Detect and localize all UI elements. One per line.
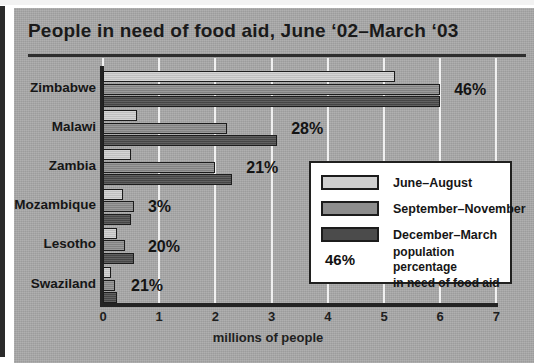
legend-note-line-2: in need of food aid [393, 276, 510, 291]
bar-texture [104, 202, 133, 211]
bar-swaziland-series-3 [103, 292, 117, 303]
x-tick-4: 4 [324, 309, 331, 324]
legend-swatch-december-march [321, 227, 379, 242]
bar-texture [104, 175, 231, 184]
bar-texture [104, 215, 130, 224]
bar-texture [104, 254, 133, 263]
bar-texture [104, 150, 130, 159]
data-label-zimbabwe: 46% [454, 81, 486, 99]
legend-swatch-june-august [321, 175, 379, 190]
legend-label-2: September–November [393, 202, 526, 216]
chart-figure: People in need of food aid, June ‘02–Mar… [0, 0, 534, 363]
x-axis-label: millions of people [168, 330, 368, 345]
bar-texture [104, 163, 214, 172]
bar-swaziland-series-1 [103, 267, 111, 278]
bar-texture [104, 190, 122, 199]
bar-texture [104, 136, 276, 145]
category-label-swaziland: Swaziland [31, 275, 96, 290]
legend-swatch-september-november [321, 201, 379, 216]
data-label-lesotho: 20% [148, 238, 180, 256]
bar-zambia-series-1 [103, 149, 131, 160]
legend-note-line-1: population percentage [393, 245, 510, 276]
page-title: People in need of food aid, June ‘02–Mar… [28, 20, 458, 42]
x-tick-3: 3 [268, 309, 275, 324]
bar-malawi-series-2 [103, 123, 227, 134]
bar-swaziland-series-2 [103, 280, 115, 291]
bar-lesotho-series-2 [103, 240, 125, 251]
bar-mozambique-series-3 [103, 214, 131, 225]
legend-box: June–AugustSeptember–NovemberDecember–Ma… [309, 161, 512, 284]
bar-texture [104, 124, 226, 133]
bar-lesotho-series-1 [103, 228, 117, 239]
legend-note-text: population percentage in need of food ai… [393, 245, 510, 291]
title-band: People in need of food aid, June ‘02–Mar… [14, 14, 534, 52]
bar-texture [104, 241, 124, 250]
bar-texture [104, 72, 394, 81]
top-edge-rule [0, 0, 534, 5]
category-labels: ZimbabweMalawiZambiaMozambiqueLesothoSwa… [0, 68, 96, 303]
category-label-mozambique: Mozambique [14, 197, 96, 212]
x-axis-line [100, 303, 498, 307]
title-underline [28, 54, 526, 57]
bar-texture [104, 85, 439, 94]
legend-note-value: 46% [325, 251, 355, 268]
bar-zimbabwe-series-3 [103, 96, 440, 107]
bar-mozambique-series-1 [103, 189, 123, 200]
bar-malawi-series-1 [103, 110, 137, 121]
bar-mozambique-series-2 [103, 201, 134, 212]
bar-zambia-series-2 [103, 162, 215, 173]
x-tick-6: 6 [437, 309, 444, 324]
x-tick-0: 0 [99, 309, 106, 324]
legend-item-2: September–November [321, 201, 526, 216]
bar-zambia-series-3 [103, 174, 232, 185]
legend-label-3: December–March [393, 228, 497, 242]
bar-zimbabwe-series-2 [103, 84, 440, 95]
category-label-malawi: Malawi [52, 118, 96, 133]
x-tick-7: 7 [493, 309, 500, 324]
data-label-malawi: 28% [291, 120, 323, 138]
legend-item-3: December–March [321, 227, 497, 242]
category-label-zambia: Zambia [49, 158, 96, 173]
bar-zimbabwe-series-1 [103, 71, 395, 82]
data-label-zambia: 21% [246, 159, 278, 177]
data-label-swaziland: 21% [131, 277, 163, 295]
bar-texture [104, 229, 116, 238]
bar-texture [104, 268, 110, 277]
bar-malawi-series-3 [103, 135, 277, 146]
category-label-zimbabwe: Zimbabwe [30, 79, 96, 94]
x-tick-5: 5 [380, 309, 387, 324]
bar-texture [104, 97, 439, 106]
bar-texture [104, 111, 136, 120]
x-tick-2: 2 [212, 309, 219, 324]
legend-label-1: June–August [393, 176, 472, 190]
legend-item-1: June–August [321, 175, 472, 190]
data-label-mozambique: 3% [148, 198, 171, 216]
bar-lesotho-series-3 [103, 253, 134, 264]
bar-texture [104, 281, 114, 290]
x-tick-1: 1 [156, 309, 163, 324]
bar-texture [104, 293, 116, 302]
category-label-lesotho: Lesotho [44, 236, 97, 251]
